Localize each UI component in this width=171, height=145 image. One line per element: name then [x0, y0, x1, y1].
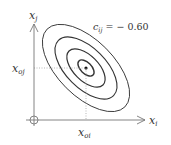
- gaussian-contour-diagram: xj xi xoj xoi cij = − 0.60: [0, 0, 171, 145]
- correlation-annotation: cij = − 0.60: [93, 21, 149, 34]
- center-x-label: xoi: [78, 126, 91, 140]
- x-axis-label: xi: [149, 114, 157, 128]
- center-y-label: xoj: [12, 62, 25, 76]
- y-axis-label: xj: [29, 9, 38, 23]
